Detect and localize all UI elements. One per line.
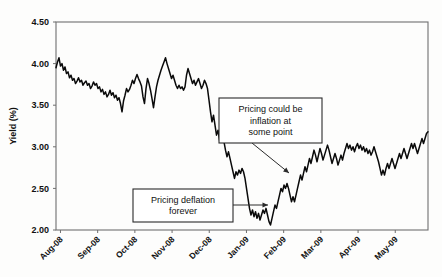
y-axis-tick-label: 4.50: [31, 17, 49, 27]
x-axis-tick-label: Oct-08: [113, 234, 139, 260]
annotation-line: some point: [248, 127, 293, 137]
yield-line-chart: 2.002.503.003.504.004.50Yield (%)Aug-08S…: [0, 0, 442, 277]
chart-container: 2.002.503.003.504.004.50Yield (%)Aug-08S…: [0, 0, 442, 277]
y-axis-tick-label: 3.00: [31, 142, 49, 152]
y-axis-tick-label: 4.00: [31, 59, 49, 69]
annotation-line: inflation at: [250, 116, 292, 126]
annotation-line: Pricing could be: [238, 104, 302, 114]
x-axis-tick-label: Dec-08: [187, 234, 214, 261]
x-axis-tick-label: Apr-09: [336, 234, 362, 260]
y-axis-tick-label: 2.50: [31, 184, 49, 194]
x-axis-tick-label: Nov-08: [149, 234, 176, 261]
y-axis-title: Yield (%): [8, 107, 18, 145]
annotation-line: forever: [169, 206, 197, 216]
annotation-arrow: [252, 143, 289, 173]
x-axis-tick-label: Jan-09: [225, 234, 251, 260]
y-axis-tick-label: 2.00: [31, 225, 49, 235]
x-axis-tick-label: May-09: [372, 234, 400, 262]
annotation-arrowhead: [263, 202, 269, 207]
x-axis-tick-label: Feb-09: [262, 234, 289, 261]
anno-inflation: Pricing could beinflation atsome point: [219, 98, 322, 173]
y-axis-tick-label: 3.50: [31, 100, 49, 110]
x-axis-tick-label: Sep-08: [75, 234, 102, 261]
annotation-line: Pricing deflation: [151, 195, 215, 205]
x-axis-tick-label: Mar-09: [299, 234, 326, 261]
x-axis-tick-label: Aug-08: [37, 234, 65, 262]
